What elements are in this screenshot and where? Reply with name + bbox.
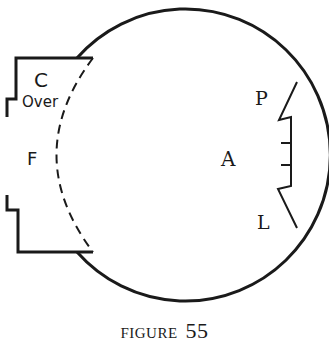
dashed-arc xyxy=(57,58,94,252)
figure-diagram: C Over F P A L xyxy=(0,0,329,348)
label-a: A xyxy=(220,147,236,171)
right-profile xyxy=(278,82,297,228)
label-f: F xyxy=(27,148,37,169)
bottom-bracket xyxy=(7,195,93,252)
caption-word: FIGURE xyxy=(120,325,177,341)
label-p: P xyxy=(255,87,268,109)
label-over: Over xyxy=(22,93,59,111)
figure-caption: FIGURE55 xyxy=(0,318,329,344)
caption-number: 55 xyxy=(186,318,209,343)
label-c: C xyxy=(34,68,48,92)
label-l: L xyxy=(257,211,270,233)
